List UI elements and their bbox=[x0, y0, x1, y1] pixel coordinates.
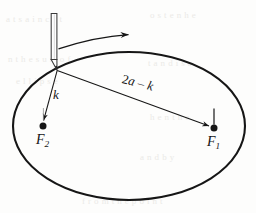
figure-canvas: a t s a i n c e to s t e n h en t h e s … bbox=[0, 0, 256, 213]
label-k: k bbox=[53, 88, 59, 101]
label-focus-2: F2 bbox=[36, 133, 49, 149]
ellipse-diagram-svg bbox=[0, 0, 256, 213]
focus-1-dot bbox=[211, 125, 218, 132]
label-focus-2-letter: F bbox=[36, 132, 45, 147]
label-focus-1-letter: F bbox=[207, 134, 216, 149]
label-focus-1-subscript: 1 bbox=[216, 141, 221, 151]
label-focus-1: F1 bbox=[207, 135, 220, 151]
focus-2-dot bbox=[40, 123, 47, 130]
motion-arrow bbox=[59, 35, 129, 49]
label-focus-2-subscript: 2 bbox=[45, 139, 50, 149]
pencil bbox=[51, 14, 57, 71]
